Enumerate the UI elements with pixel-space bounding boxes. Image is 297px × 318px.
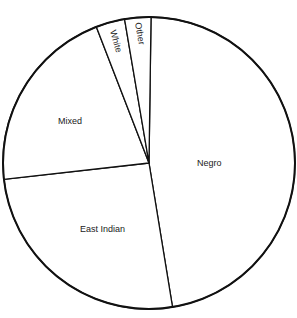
label-mixed: Mixed [58, 116, 82, 126]
pie-slices [3, 17, 295, 309]
pie-chart: Negro East Indian Mixed White Other [0, 0, 297, 318]
slice-east-indian [4, 163, 173, 309]
label-east-indian: East Indian [80, 224, 125, 234]
label-negro: Negro [197, 158, 222, 168]
slice-negro [149, 17, 295, 307]
